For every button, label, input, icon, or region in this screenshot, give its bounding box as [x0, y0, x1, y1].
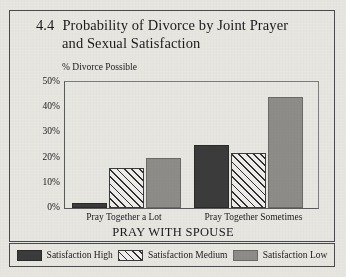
y-tick-10: 10%: [43, 178, 60, 188]
legend-entry-high: Satisfaction High: [17, 250, 113, 261]
legend-label-medium: Satisfaction Medium: [148, 250, 227, 260]
bar-sometimes-low: [268, 97, 303, 208]
figure-title: 4.4Probability of Divorce by Joint Praye…: [36, 16, 316, 52]
y-tick-30: 30%: [43, 128, 60, 138]
diagonal-hatch-swatch-icon: [118, 250, 143, 261]
figure-number: 4.4: [36, 17, 54, 33]
x-group-label-a-lot: Pray Together a Lot: [64, 212, 184, 222]
legend-entry-medium: Satisfaction Medium: [118, 250, 227, 261]
legend-entry-low: Satisfaction Low: [233, 250, 328, 261]
legend: Satisfaction High Satisfaction Medium Sa…: [9, 243, 335, 267]
bar-lot-high: [72, 203, 107, 208]
bar-sometimes-medium: [231, 153, 266, 208]
x-group-label-sometimes: Pray Together Sometimes: [186, 212, 321, 222]
x-axis-title: PRAY WITH SPOUSE: [0, 225, 346, 240]
y-tick-20: 20%: [43, 153, 60, 163]
y-tick-50: 50%: [43, 77, 60, 87]
solid-dark-swatch-icon: [17, 250, 42, 261]
legend-label-high: Satisfaction High: [47, 250, 113, 260]
y-axis-title: % Divorce Possible: [62, 62, 137, 72]
bar-sometimes-high: [194, 145, 229, 208]
y-tick-0: 0%: [47, 203, 60, 213]
figure-title-line-1: Probability of Divorce by Joint Prayer: [62, 17, 288, 33]
bar-lot-low: [146, 158, 181, 208]
bar-group-container: [65, 82, 318, 208]
bar-lot-medium: [109, 168, 144, 208]
figure-title-line-2: and Sexual Satisfaction: [36, 34, 316, 52]
legend-label-low: Satisfaction Low: [263, 250, 328, 260]
solid-gray-swatch-icon: [233, 250, 258, 261]
y-tick-40: 40%: [43, 102, 60, 112]
plot-area: 50% 40% 30% 20% 10% 0%: [64, 81, 319, 209]
